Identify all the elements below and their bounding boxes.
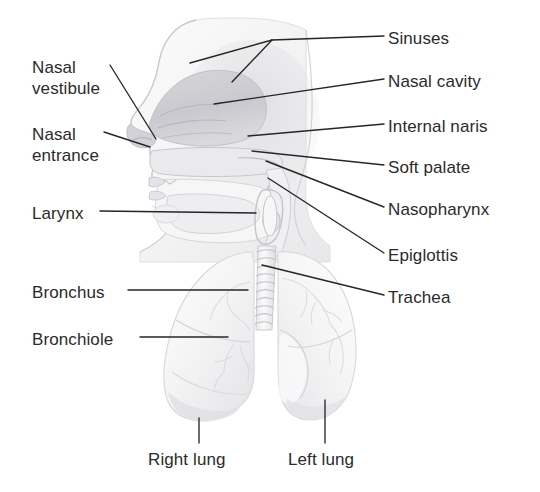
label-epiglottis: Epiglottis [388, 245, 458, 266]
label-left-lung: Left lung [288, 449, 354, 470]
label-internal-naris: Internal naris [388, 116, 488, 137]
label-sinuses: Sinuses [388, 28, 449, 49]
label-soft-palate: Soft palate [388, 157, 470, 178]
label-nasopharynx: Nasopharynx [388, 199, 489, 220]
label-larynx: Larynx [32, 203, 84, 224]
label-nasal-entrance: Nasal entrance [32, 124, 99, 166]
label-bronchiole: Bronchiole [32, 329, 113, 350]
label-nasal-cavity: Nasal cavity [388, 71, 481, 92]
label-trachea: Trachea [388, 287, 450, 308]
label-right-lung: Right lung [148, 449, 226, 470]
label-bronchus: Bronchus [32, 282, 105, 303]
label-layer: Nasal vestibule Nasal entrance Larynx Br… [0, 0, 540, 492]
label-nasal-vestibule: Nasal vestibule [32, 57, 100, 99]
respiratory-system-figure: Nasal vestibule Nasal entrance Larynx Br… [0, 0, 540, 492]
